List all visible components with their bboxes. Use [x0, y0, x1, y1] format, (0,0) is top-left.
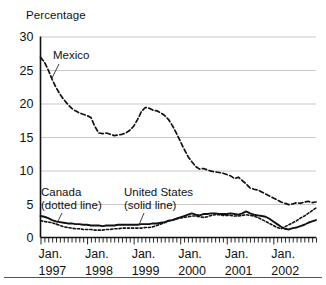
y-axis-tick-labels: 051015202530	[20, 30, 34, 245]
x-tick-month-label: Jan.	[85, 247, 109, 261]
us-label-line1: United States	[124, 186, 193, 198]
mexico-annotation-group: Mexico	[52, 49, 89, 78]
x-tick-month-label: Jan.	[39, 247, 63, 261]
y-tick-label: 10	[20, 164, 34, 178]
line-chart-plot: 051015202530 Jan.1997Jan.1998Jan.1999Jan…	[0, 0, 326, 285]
y-tick-label: 20	[20, 97, 34, 111]
mexico-leader-line	[52, 64, 59, 78]
x-axis-minor-ticks	[41, 238, 317, 245]
x-axis-tick-labels: Jan.1997Jan.1998Jan.1999Jan.2000Jan.2001…	[39, 247, 300, 278]
gridlines-group	[41, 37, 317, 205]
y-tick-label: 0	[27, 231, 34, 245]
canada-label-line1: Canada	[41, 186, 82, 198]
y-tick-label: 25	[20, 64, 34, 78]
bottom-divider	[4, 277, 322, 278]
series-line-canada	[41, 208, 317, 230]
x-tick-month-label: Jan.	[225, 247, 249, 261]
x-tick-month-label: Jan.	[132, 247, 156, 261]
canada-label-line2: (dotted line)	[41, 199, 102, 211]
series-line-mexico	[41, 57, 317, 204]
x-tick-month-label: Jan.	[271, 247, 295, 261]
x-tick-year-label: 1997	[39, 264, 67, 278]
y-tick-label: 15	[20, 131, 34, 145]
x-tick-year-label: 2002	[271, 264, 299, 278]
chart-figure: Percentage 051015202530 Jan.1997Jan.1998…	[0, 0, 326, 285]
x-tick-year-label: 2000	[178, 264, 206, 278]
y-tick-label: 5	[27, 198, 34, 212]
us-label-line2: (solid line)	[124, 199, 177, 211]
x-tick-month-label: Jan.	[178, 247, 202, 261]
y-tick-label: 30	[20, 30, 34, 44]
x-tick-year-label: 1998	[85, 264, 113, 278]
x-tick-year-label: 2001	[225, 264, 253, 278]
mexico-label: Mexico	[53, 49, 89, 61]
x-tick-year-label: 1999	[132, 264, 160, 278]
us-annotation-group: United States (solid line)	[124, 186, 193, 225]
